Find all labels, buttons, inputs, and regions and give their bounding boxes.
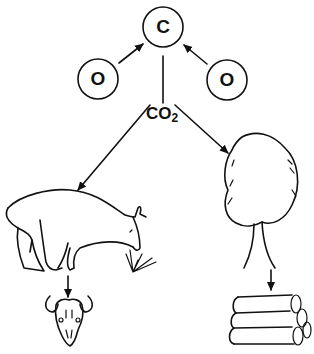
sheep-icon xyxy=(6,190,156,272)
arrow-co2-to-sheep xyxy=(78,105,150,190)
co2-main: CO xyxy=(146,104,172,123)
co2-subscript: 2 xyxy=(172,111,179,125)
carbon-cycle-diagram: C O O CO2 xyxy=(0,0,314,354)
oxygen-left-label: O xyxy=(83,64,113,94)
logs-icon xyxy=(230,295,312,345)
carbon-atom-label: C xyxy=(148,12,178,42)
skull-icon xyxy=(46,296,93,346)
tree-icon xyxy=(225,133,298,268)
arrow-co2-to-tree xyxy=(175,105,228,153)
diagram-drawing xyxy=(0,0,314,354)
oxygen-right-label: O xyxy=(212,65,242,95)
arrow-oxygen-right-to-carbon xyxy=(184,45,207,64)
arrow-oxygen-left-to-carbon xyxy=(119,44,143,63)
co2-label: CO2 xyxy=(146,104,178,125)
